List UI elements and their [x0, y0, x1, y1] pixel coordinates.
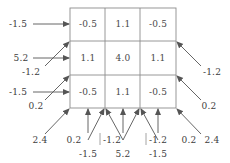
- label-right-diagonal-lower: 0.2: [202, 102, 217, 111]
- left-diagonal-arrows: [45, 42, 69, 134]
- cell-r3c2: 1.1: [116, 88, 131, 97]
- label-left-row1: -1.5: [9, 20, 27, 29]
- label-left-row2: 5.2: [14, 54, 29, 63]
- cell-r3c1: -0.5: [79, 88, 97, 97]
- cell-r2c3: 1.1: [151, 54, 166, 63]
- label-right-diagonal-upper: -1.2: [203, 68, 221, 77]
- label-bottom-col3-upper: 0.2: [182, 136, 197, 145]
- label-bottom-mid-left: -1.2: [103, 136, 121, 145]
- label-left-diagonal-upper: -1.2: [22, 68, 40, 77]
- cell-r2c1: 1.1: [81, 54, 96, 63]
- label-bottom-corner-left: 2.4: [33, 136, 48, 145]
- right-diagonal-arrows: [177, 42, 201, 134]
- label-left-row3: -1.5: [9, 88, 27, 97]
- label-bottom-corner-right: 2.4: [205, 136, 220, 145]
- cell-r1c3: -0.5: [149, 20, 167, 29]
- cell-r2c2: 4.0: [116, 54, 131, 63]
- label-bottom-col1-upper: 0.2: [67, 136, 82, 145]
- label-bottom-col3-lower: -1.5: [149, 150, 167, 159]
- stencil-grid-figure: -0.5 1.1 -0.5 1.1 4.0 1.1 -0.5 1.1 -0.5 …: [0, 0, 230, 163]
- label-bottom-col1-lower: -1.5: [79, 150, 97, 159]
- cell-r1c1: -0.5: [79, 20, 97, 29]
- label-bottom-center: 5.2: [116, 150, 131, 159]
- label-left-diagonal-lower: 0.2: [29, 102, 44, 111]
- cell-r3c3: -0.5: [149, 88, 167, 97]
- cell-r1c2: 1.1: [116, 20, 131, 29]
- label-bottom-mid-right: -1.2: [149, 136, 167, 145]
